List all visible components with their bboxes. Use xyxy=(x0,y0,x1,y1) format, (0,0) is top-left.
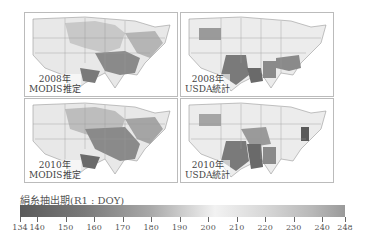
panel-year: 2010年 xyxy=(185,160,230,170)
colorbar-tick-label: 180 xyxy=(143,223,158,232)
panel-label: 2008年 USDA統計 xyxy=(185,74,230,94)
colorbar-tick-label: 190 xyxy=(172,223,187,232)
colorbar-tick xyxy=(265,217,266,222)
colorbar-tick xyxy=(237,217,238,222)
colorbar-tick-label: 160 xyxy=(86,223,101,232)
panel-year: 2010年 xyxy=(29,160,81,170)
panel-source: USDA統計 xyxy=(185,170,230,180)
colorbar-tick xyxy=(66,217,67,222)
map-panel-modis-2008: 2008年 MODIS推定 xyxy=(24,12,178,97)
colorbar xyxy=(20,205,345,217)
panel-year: 2008年 xyxy=(185,74,230,84)
colorbar-tick xyxy=(294,217,295,222)
colorbar-tick xyxy=(345,217,346,222)
colorbar-tick xyxy=(123,217,124,222)
panel-source: MODIS推定 xyxy=(29,170,81,180)
colorbar-tick-label: 230 xyxy=(286,223,301,232)
colorbar-tick xyxy=(208,217,209,222)
colorbar-tick xyxy=(151,217,152,222)
map-panel-usda-2010: 2010年 USDA統計 xyxy=(180,98,334,183)
colorbar-tick xyxy=(94,217,95,222)
colorbar-tick-label: 248 xyxy=(337,223,352,232)
panel-year: 2008年 xyxy=(29,74,81,84)
panel-label: 2008年 MODIS推定 xyxy=(29,74,81,94)
panel-label: 2010年 MODIS推定 xyxy=(29,160,81,180)
map-panel-usda-2008: 2008年 USDA統計 xyxy=(180,12,334,97)
panel-source: USDA統計 xyxy=(185,84,230,94)
colorbar-tick xyxy=(20,217,21,222)
colorbar-tick-label: 220 xyxy=(258,223,273,232)
panel-label: 2010年 USDA統計 xyxy=(185,160,230,180)
map-panel-modis-2010: 2010年 MODIS推定 xyxy=(24,98,178,183)
colorbar-tick xyxy=(37,217,38,222)
colorbar-tick xyxy=(322,217,323,222)
colorbar-tick xyxy=(180,217,181,222)
colorbar-tick-label: 170 xyxy=(115,223,130,232)
colorbar-tick-label: 150 xyxy=(58,223,73,232)
colorbar-tick-label: 210 xyxy=(229,223,244,232)
colorbar-tick-label: 134 xyxy=(12,223,27,232)
colorbar-tick-label: 200 xyxy=(201,223,216,232)
colorbar-tick-label: 240 xyxy=(315,223,330,232)
colorbar-tick-label: 140 xyxy=(29,223,44,232)
panel-source: MODIS推定 xyxy=(29,84,81,94)
